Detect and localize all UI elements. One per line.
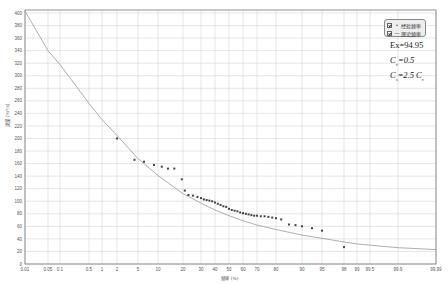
data-point: [228, 208, 230, 210]
cs-subscript-2: v: [422, 77, 424, 82]
svg-text:240: 240: [14, 111, 22, 116]
data-point: [134, 159, 136, 161]
svg-text:30: 30: [198, 267, 204, 272]
data-point: [267, 216, 269, 218]
data-point: [187, 194, 189, 196]
svg-text:20: 20: [180, 267, 186, 272]
data-point: [301, 225, 303, 227]
svg-text:10: 10: [155, 267, 161, 272]
svg-text:300: 300: [14, 73, 22, 78]
svg-text:60: 60: [240, 267, 246, 272]
x-axis-ticks: 0.010.050.10.512510203040506070809095989…: [21, 267, 443, 272]
data-point: [196, 196, 198, 198]
data-point: [311, 227, 313, 229]
plot-frame: [25, 10, 436, 264]
x-axis-label: 频率 (%): [221, 275, 238, 282]
svg-text:80: 80: [273, 267, 279, 272]
svg-text:160: 160: [14, 161, 22, 166]
frequency-curve-chart: 0204060801001201401601802002202402602803…: [0, 0, 448, 284]
data-point: [231, 209, 233, 211]
legend: • 经验频率 — 理论频率: [384, 19, 426, 37]
annotation-ex: Ex=94.95: [390, 40, 423, 50]
annotation-cv: Cv=0.5: [390, 55, 414, 67]
y-axis-label: 流量 (m³/s): [4, 103, 11, 126]
svg-text:99: 99: [354, 267, 360, 272]
svg-text:400: 400: [14, 11, 22, 16]
data-point: [271, 217, 273, 219]
data-point: [234, 210, 236, 212]
cs-value: =2.5 C: [398, 70, 422, 80]
svg-text:90: 90: [299, 267, 305, 272]
svg-text:5: 5: [137, 267, 140, 272]
annotation-cs: Cs=2.5 Cv: [390, 70, 424, 82]
svg-text:95: 95: [319, 267, 325, 272]
data-point: [161, 166, 163, 168]
svg-text:80: 80: [17, 211, 23, 216]
svg-text:99.5: 99.5: [366, 267, 375, 272]
legend-item-empirical[interactable]: • 经验频率: [387, 21, 423, 29]
data-point: [214, 202, 216, 204]
svg-text:99.99: 99.99: [430, 267, 442, 272]
empirical-frequency-points: [116, 138, 345, 249]
data-point: [288, 224, 290, 226]
svg-text:50: 50: [226, 267, 232, 272]
legend-label: 理论频率: [401, 30, 421, 37]
data-point: [260, 215, 262, 217]
data-point: [184, 190, 186, 192]
svg-text:99.9: 99.9: [394, 267, 403, 272]
svg-text:40: 40: [212, 267, 218, 272]
data-point: [250, 214, 252, 216]
svg-text:40: 40: [17, 237, 23, 242]
svg-text:100: 100: [14, 199, 22, 204]
data-point: [143, 161, 145, 163]
legend-item-theoretical[interactable]: — 理论频率: [387, 29, 423, 37]
data-point: [200, 197, 202, 199]
point-symbol-icon: •: [394, 22, 400, 28]
data-point: [173, 168, 175, 170]
svg-text:60: 60: [17, 224, 23, 229]
data-point: [253, 215, 255, 217]
data-point: [225, 206, 227, 208]
data-point: [116, 138, 118, 140]
svg-text:140: 140: [14, 174, 22, 179]
svg-text:320: 320: [14, 61, 22, 66]
svg-text:260: 260: [14, 98, 22, 103]
data-point: [222, 205, 224, 207]
data-point: [264, 215, 266, 217]
data-point: [275, 217, 277, 219]
data-point: [239, 212, 241, 214]
data-point: [208, 200, 210, 202]
data-point: [192, 195, 194, 197]
checkbox-icon[interactable]: [387, 23, 392, 28]
data-point: [245, 213, 247, 215]
data-point: [181, 178, 183, 180]
svg-text:0.1: 0.1: [57, 267, 64, 272]
svg-text:1: 1: [101, 267, 104, 272]
svg-text:380: 380: [14, 23, 22, 28]
svg-text:98: 98: [341, 267, 347, 272]
checkbox-icon[interactable]: [387, 31, 392, 36]
grid-lines: [25, 10, 436, 264]
svg-text:180: 180: [14, 149, 22, 154]
svg-text:0.5: 0.5: [86, 267, 93, 272]
svg-text:360: 360: [14, 36, 22, 41]
data-point: [167, 168, 169, 170]
svg-text:280: 280: [14, 86, 22, 91]
data-point: [248, 213, 250, 215]
svg-text:20: 20: [17, 249, 23, 254]
data-point: [295, 224, 297, 226]
svg-text:200: 200: [14, 136, 22, 141]
svg-text:0.01: 0.01: [21, 267, 30, 272]
y-axis-ticks: 0204060801001201401601802002202402602803…: [14, 11, 22, 267]
data-point: [153, 164, 155, 166]
svg-text:340: 340: [14, 48, 22, 53]
data-point: [236, 210, 238, 212]
data-point: [242, 212, 244, 214]
data-point: [220, 204, 222, 206]
svg-text:0.05: 0.05: [44, 267, 53, 272]
data-point: [256, 215, 258, 217]
svg-text:0: 0: [19, 262, 22, 267]
data-point: [321, 230, 323, 232]
data-point: [211, 200, 213, 202]
cv-value: =0.5: [398, 55, 414, 65]
